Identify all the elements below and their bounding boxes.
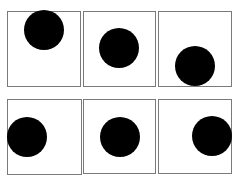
black-circle-icon [24,10,64,50]
black-circle-icon [192,116,232,156]
black-circle-icon [175,46,215,86]
black-circle-icon [100,117,140,157]
black-circle-icon [7,117,47,157]
black-circle-icon [99,28,139,68]
